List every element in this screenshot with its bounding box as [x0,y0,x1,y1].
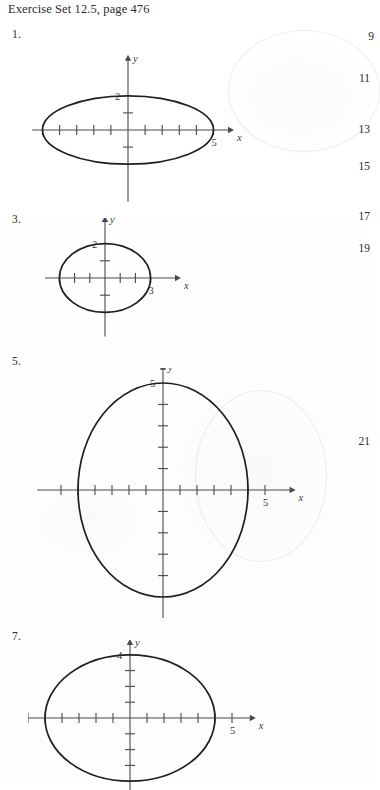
x-axis-label: x [236,132,242,143]
y-axis-arrow-icon [102,218,108,222]
y-value-label: 5 [150,378,155,389]
problem-number-right: 9 [352,30,374,42]
y-axis-arrow-icon [127,640,133,645]
y-value-label: 2 [92,239,97,250]
problem-number-right: 17 [348,210,370,222]
page-title: Exercise Set 12.5, page 476 [8,2,150,17]
x-axis-label: x [258,720,264,731]
x-axis-label: x [298,492,304,503]
x-value-label: 3 [149,285,154,296]
problem-number-right: 21 [348,435,370,447]
ellipse-graph-1: xy52 [14,26,259,206]
y-value-label: 4 [117,650,123,661]
problem-number-right: 13 [348,123,370,135]
problem-number-5: 5. [12,355,21,367]
y-value-label: 2 [115,91,120,102]
y-axis-label: y [134,640,140,648]
problem-number-3: 3. [12,213,21,225]
problem-number-right: 11 [348,72,370,84]
x-value-label: 5 [230,725,235,736]
x-axis-arrow-icon [175,275,181,281]
problem-number-7: 7. [12,630,21,642]
x-value-label: 5 [263,497,268,508]
y-axis-label: y [132,53,138,64]
x-value-label: 5 [212,137,217,148]
x-axis-arrow-icon [290,487,296,493]
y-axis-arrow-icon [125,55,131,61]
problem-number-right: 19 [348,242,370,254]
x-axis-label: x [183,280,189,291]
y-axis-arrow-icon [160,368,166,370]
y-axis-label: y [109,218,115,225]
y-axis-label: y [167,368,173,373]
problem-number-right: 15 [348,160,370,172]
ellipse-graph-3: xy32 [45,218,230,343]
x-axis-arrow-icon [228,127,234,133]
ellipse-graph-5: xy55 [28,368,328,618]
x-axis-arrow-icon [250,715,256,721]
ellipse-graph-7: xy54 [28,640,318,790]
